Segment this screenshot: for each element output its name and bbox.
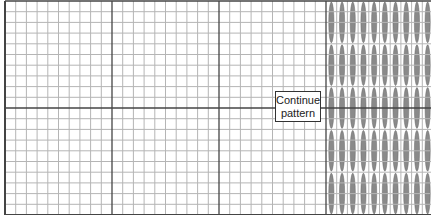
grid-lines	[0, 0, 431, 215]
label-line-2: pattern	[276, 107, 320, 120]
stitch-chart: Continue pattern	[0, 0, 431, 215]
label-line-1: Continue	[276, 94, 320, 107]
continue-pattern-label: Continue pattern	[275, 91, 321, 122]
